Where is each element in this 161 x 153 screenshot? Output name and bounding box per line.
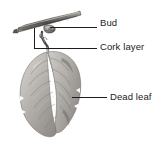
cork-layer-shape: [40, 32, 48, 49]
dead-leaf-shape: [20, 51, 81, 136]
label-bud: Bud: [100, 17, 117, 28]
botanical-diagram-figure: Bud Cork layer Dead leaf: [0, 0, 161, 153]
bud-shape: [44, 25, 55, 33]
label-dead-leaf: Dead leaf: [110, 91, 152, 102]
leaf-twig-illustration: [0, 0, 161, 153]
label-cork-layer: Cork layer: [100, 41, 144, 52]
